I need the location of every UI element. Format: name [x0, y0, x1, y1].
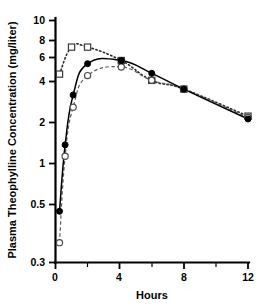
y-tick-label-10: 10: [33, 14, 45, 26]
data-point-filled-circle: [149, 70, 155, 76]
x-tick-label-8: 8: [181, 271, 187, 283]
data-point-open-square: [56, 71, 62, 77]
data-point-filled-circle: [181, 86, 187, 92]
y-tick-label-2: 2: [39, 116, 45, 128]
axes-group: [55, 18, 249, 263]
data-point-open-circle: [84, 73, 90, 79]
data-point-open-circle: [56, 240, 62, 246]
data-point-open-circle: [118, 64, 124, 70]
data-point-open-circle: [149, 77, 155, 83]
x-tick-label-4: 4: [116, 271, 122, 283]
data-point-open-square: [68, 44, 74, 50]
x-tick-label-0: 0: [52, 271, 58, 283]
x-axis-tick-labels: 0 4 8 12: [52, 271, 254, 283]
series-line-open-circle-dashed: [60, 67, 248, 243]
y-tick-label-0point5: 0.5: [30, 198, 45, 210]
data-point-filled-circle: [70, 92, 76, 98]
chart-figure: 10 8 6 4 2 1 0.5 0.3 0 4 8 12 Hours: [0, 0, 265, 306]
y-tick-label-0point3: 0.3: [30, 256, 45, 268]
y-tick-label-4: 4: [39, 75, 45, 87]
data-point-open-square: [84, 44, 90, 50]
y-tick-label-6: 6: [39, 51, 45, 63]
x-axis-title: Hours: [136, 289, 168, 301]
data-point-filled-circle: [245, 116, 251, 122]
data-point-open-circle: [70, 104, 76, 110]
data-point-filled-circle: [62, 142, 68, 148]
plot-area: 10 8 6 4 2 1 0.5 0.3 0 4 8 12 Hours: [0, 0, 265, 306]
series-markers-open-circle: [56, 64, 251, 246]
y-axis-title: Plasma Theophylline Concentration (mg/li…: [6, 21, 18, 258]
y-axis-ticks: [49, 21, 55, 263]
data-point-filled-circle: [118, 58, 124, 64]
data-point-filled-circle: [85, 61, 91, 67]
x-tick-label-12: 12: [242, 271, 254, 283]
y-tick-label-8: 8: [39, 34, 45, 46]
data-point-filled-circle: [57, 208, 63, 214]
y-tick-label-1: 1: [39, 157, 45, 169]
data-point-open-circle: [62, 153, 68, 159]
y-axis-tick-labels: 10 8 6 4 2 1 0.5 0.3: [30, 14, 45, 268]
